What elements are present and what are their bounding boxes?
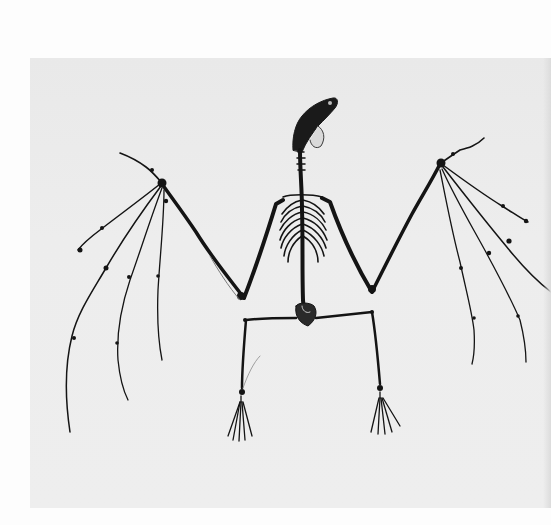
right-foot <box>371 385 400 434</box>
pelvis <box>296 303 316 326</box>
left-foot <box>228 389 252 441</box>
photo-edge-shadow <box>543 58 551 508</box>
bat-skeleton-illustration <box>30 58 551 508</box>
right-arm <box>322 164 440 293</box>
left-leg <box>242 318 296 388</box>
right-leg <box>316 310 380 384</box>
bat-skeleton-photo <box>30 58 551 508</box>
skull <box>293 98 338 152</box>
page: Bat skeleton specimen with outstretched … <box>0 0 551 525</box>
right-wing <box>437 138 551 364</box>
left-arm <box>162 184 283 300</box>
left-wing <box>66 153 168 432</box>
